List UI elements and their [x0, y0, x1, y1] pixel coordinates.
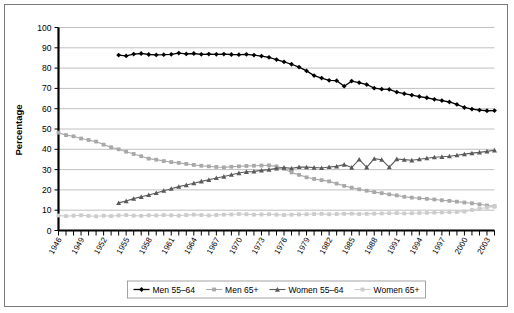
data-point: [493, 205, 497, 209]
data-point: [102, 143, 106, 147]
data-point: [199, 52, 204, 57]
x-tick-label: 1952: [92, 236, 109, 256]
data-point: [478, 207, 482, 211]
data-point: [335, 212, 339, 216]
data-point: [132, 152, 136, 156]
data-point: [320, 212, 324, 216]
data-point: [425, 197, 429, 201]
data-point: [282, 213, 286, 217]
data-point: [222, 165, 226, 169]
x-tick-label: 1967: [205, 236, 222, 256]
data-point: [312, 212, 316, 216]
x-tick-label: 1982: [318, 236, 335, 256]
x-axis-ticks: 1946194919521955195819611964196719701973…: [47, 231, 494, 256]
data-point: [169, 52, 174, 57]
data-point: [372, 190, 376, 194]
y-axis-ticks: 0102030405060708090100: [37, 23, 58, 236]
data-point: [139, 51, 144, 56]
data-point: [229, 213, 233, 217]
data-point: [439, 98, 444, 103]
data-point: [424, 95, 429, 100]
y-tick-label: 40: [42, 144, 52, 154]
data-point: [87, 138, 91, 142]
data-point: [379, 87, 384, 92]
data-point: [440, 198, 444, 202]
data-point: [169, 213, 173, 217]
y-tick-label: 90: [42, 43, 52, 53]
y-tick-label: 70: [42, 83, 52, 93]
data-point: [320, 178, 324, 182]
data-point: [116, 53, 121, 58]
x-tick-label: 1949: [70, 236, 87, 256]
data-point: [290, 171, 294, 175]
data-point: [410, 211, 414, 215]
data-point: [199, 164, 203, 168]
x-tick-label: 1988: [363, 236, 380, 256]
data-point: [447, 210, 451, 214]
data-point: [79, 137, 83, 141]
data-point: [147, 157, 151, 161]
x-tick-label: 1964: [182, 236, 199, 256]
data-point: [394, 90, 399, 95]
data-point: [364, 82, 369, 87]
data-point: [57, 131, 61, 135]
line-chart: 0102030405060708090100194619491952195519…: [0, 0, 514, 313]
data-point: [305, 175, 309, 179]
chart-area: 0102030405060708090100194619491952195519…: [0, 0, 514, 313]
data-point: [162, 213, 166, 217]
data-point: [409, 93, 414, 98]
data-point: [245, 164, 249, 168]
data-point: [132, 214, 136, 218]
data-point: [417, 196, 421, 200]
data-point: [252, 53, 257, 58]
data-point: [64, 133, 68, 137]
x-tick-label: 1991: [385, 236, 402, 256]
data-point: [72, 214, 76, 218]
data-point: [387, 211, 391, 215]
data-point: [361, 288, 365, 292]
x-tick-label: 1970: [227, 236, 244, 256]
data-point: [260, 213, 264, 217]
data-point: [387, 192, 391, 196]
data-point: [146, 52, 151, 57]
x-tick-label: 1946: [47, 236, 64, 256]
data-point: [245, 212, 249, 216]
data-point: [206, 52, 211, 57]
data-point: [161, 52, 166, 57]
y-tick-label: 0: [47, 226, 52, 236]
data-point: [357, 80, 362, 85]
data-point: [162, 159, 166, 163]
x-tick-label: 1979: [295, 236, 312, 256]
data-point: [387, 87, 392, 92]
y-tick-label: 10: [42, 205, 52, 215]
data-point: [357, 187, 361, 191]
data-point: [357, 212, 361, 216]
y-tick-label: 100: [37, 23, 51, 33]
legend-label: Men 55–64: [153, 285, 196, 295]
data-point: [485, 206, 489, 210]
data-point: [395, 193, 399, 197]
data-point: [94, 140, 98, 144]
data-point: [244, 52, 249, 57]
data-point: [350, 186, 354, 190]
data-point: [417, 211, 421, 215]
data-point: [207, 164, 211, 168]
data-point: [117, 214, 121, 218]
data-point: [229, 165, 233, 169]
data-point: [237, 212, 241, 216]
data-point: [192, 213, 196, 217]
data-point: [154, 53, 159, 58]
legend-label: Men 65+: [225, 285, 258, 295]
data-point: [102, 214, 106, 218]
data-point: [312, 177, 316, 181]
data-point: [267, 212, 271, 216]
legend-label: Women 65+: [374, 285, 420, 295]
legend-label: Women 55–64: [288, 285, 343, 295]
data-point: [365, 212, 369, 216]
data-point: [447, 199, 451, 203]
x-tick-label: 1961: [160, 236, 177, 256]
data-point: [139, 214, 143, 218]
data-point: [440, 211, 444, 215]
data-point: [297, 213, 301, 217]
data-point: [319, 76, 324, 81]
